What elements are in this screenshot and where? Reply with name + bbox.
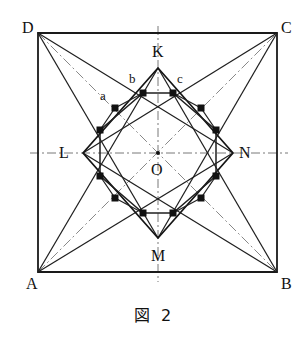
figure-container: D C A B K L M N O a b c 図 2 xyxy=(0,0,308,341)
label-b: b xyxy=(129,72,136,85)
center-point xyxy=(156,151,160,155)
dot-marker xyxy=(97,127,104,134)
dot-marker xyxy=(170,210,177,217)
dot-marker xyxy=(170,90,177,97)
label-N: N xyxy=(239,145,251,161)
dot-marker xyxy=(213,127,220,134)
label-c: c xyxy=(177,72,183,85)
dot-marker xyxy=(213,173,220,180)
dot-marker xyxy=(112,105,119,112)
figure-caption: 図 2 xyxy=(0,302,308,326)
dot-marker xyxy=(198,105,205,112)
label-D: D xyxy=(22,20,34,36)
dot-marker xyxy=(112,195,119,202)
label-M: M xyxy=(151,248,165,264)
center-dot xyxy=(156,151,160,155)
dot-marker xyxy=(140,90,147,97)
dot-marker xyxy=(140,210,147,217)
label-K: K xyxy=(152,44,164,60)
label-O: O xyxy=(151,162,163,178)
dot-marker xyxy=(198,195,205,202)
label-B: B xyxy=(281,276,292,292)
label-C: C xyxy=(281,20,292,36)
label-L: L xyxy=(59,145,69,161)
label-a: a xyxy=(100,89,106,102)
label-A: A xyxy=(26,276,38,292)
dot-marker xyxy=(97,173,104,180)
